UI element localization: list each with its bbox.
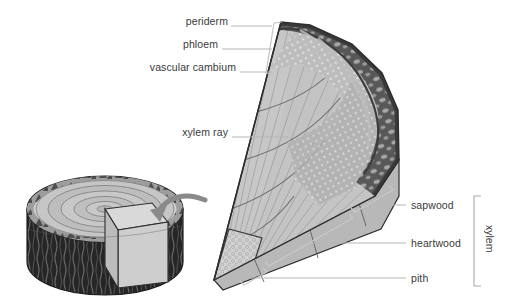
label-phloem: phloem bbox=[118, 39, 218, 50]
label-vascular-cambium: vascular cambium bbox=[108, 62, 236, 73]
wood-anatomy-illustration bbox=[0, 0, 510, 308]
figure-canvas: periderm phloem vascular cambium xylem r… bbox=[0, 0, 510, 308]
label-periderm: periderm bbox=[118, 16, 228, 27]
label-pith: pith bbox=[411, 273, 428, 284]
log-illustration bbox=[27, 176, 183, 295]
label-sapwood: sapwood bbox=[411, 200, 454, 211]
label-xylem-bracket: xylem bbox=[484, 225, 495, 252]
wedge-section bbox=[214, 22, 399, 290]
xylem-bracket bbox=[474, 196, 481, 286]
label-xylem-ray: xylem ray bbox=[118, 127, 228, 138]
label-heartwood: heartwood bbox=[411, 238, 461, 249]
